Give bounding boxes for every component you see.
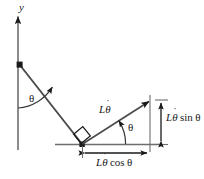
angle-theta-velocity-label: θ [128, 122, 133, 133]
horizontal-component-overdot-icon: ˙ [103, 152, 106, 162]
vertical-component-label: Lθ˙sinθ [166, 112, 200, 123]
angle-arc-velocity-path [119, 121, 126, 144]
diagram-canvas [0, 0, 204, 179]
rod-line [20, 65, 83, 145]
velocity-thetadot-symbol: θ˙ [105, 104, 110, 115]
horizontal-reference-line [55, 142, 162, 147]
vertical-component-thetadot-symbol: θ˙ [172, 112, 177, 123]
angle-arc-rod [18, 87, 52, 108]
angle-theta-rod-label: θ [29, 93, 34, 104]
horizontal-component-thetadot-symbol: θ˙ [102, 157, 107, 168]
pendulum-rod [17, 62, 82, 144]
pivot-marker [17, 62, 23, 68]
extension-lines [150, 95, 168, 152]
horizontal-component-argument: θ [127, 156, 132, 168]
angle-arc-rod-path [18, 87, 52, 108]
horizontal-component-function: cos [110, 156, 125, 168]
velocity-vector [83, 102, 150, 145]
y-axis-label: y [19, 2, 24, 13]
vertical-component-overdot-icon: ˙ [173, 107, 176, 117]
velocity-vector-line [83, 102, 150, 145]
vertical-component-function: sin [180, 111, 193, 123]
pendulum-velocity-diagram: y θ θ Lθ˙ Lθ˙sinθ Lθ˙cosθ [0, 0, 204, 179]
vertical-component-argument: θ [195, 111, 200, 123]
horizontal-component-label: Lθ˙cosθ [96, 157, 132, 168]
velocity-magnitude-label: Lθ˙ [99, 104, 111, 115]
angle-arc-velocity [119, 121, 126, 144]
velocity-overdot-icon: ˙ [106, 99, 109, 109]
